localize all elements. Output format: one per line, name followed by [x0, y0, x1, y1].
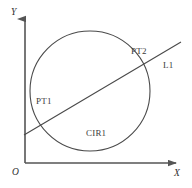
- circle-label-cir1: CIR1: [86, 129, 106, 138]
- figure-canvas: [0, 0, 192, 188]
- y-axis-label: Y: [11, 8, 16, 18]
- origin-label: O: [12, 168, 19, 178]
- line-label-l1: L1: [163, 61, 173, 70]
- x-axis-label: X: [174, 169, 180, 179]
- geometry-figure: Y X O PT1 PT2 L1 CIR1: [0, 0, 192, 188]
- point-label-pt2: PT2: [131, 47, 147, 56]
- line-l1: [24, 42, 181, 135]
- point-label-pt1: PT1: [36, 97, 52, 106]
